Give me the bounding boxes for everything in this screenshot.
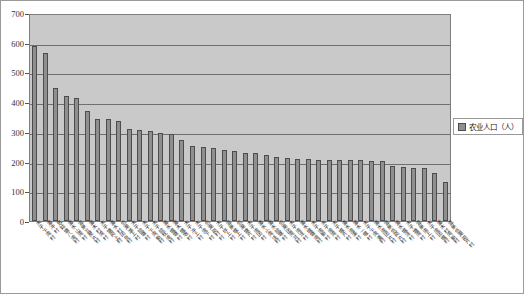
y-axis-tick-label: 600 xyxy=(11,39,24,49)
bar xyxy=(127,129,132,221)
bar xyxy=(43,53,48,221)
bar xyxy=(316,160,321,222)
bar xyxy=(32,46,37,221)
y-axis-tick-label: 400 xyxy=(11,98,24,108)
y-axis-tick-label: 200 xyxy=(11,158,24,168)
x-axis-labels: 木子下湾村潘冲村思姑塘八湾村潘水山湾村温泉瓦屋片村潘木村湾村木子塘岗上村潘水村团… xyxy=(29,223,451,295)
y-axis-tick-label: 300 xyxy=(11,128,24,138)
bar xyxy=(253,153,258,221)
bar xyxy=(285,158,290,221)
bar xyxy=(53,88,58,221)
bar xyxy=(74,98,79,221)
plot-area xyxy=(29,14,451,222)
y-axis-tick-label: 500 xyxy=(11,68,24,78)
bar xyxy=(64,96,69,221)
bar xyxy=(264,155,269,221)
bar xyxy=(201,147,206,221)
bar xyxy=(243,153,248,221)
bar xyxy=(95,119,100,222)
chart-frame: 0100200300400500600700 木子下湾村潘冲村思姑塘八湾村潘水山… xyxy=(0,0,524,294)
bar xyxy=(380,161,385,221)
bar xyxy=(432,173,437,221)
bar xyxy=(327,160,332,221)
bar xyxy=(358,160,363,221)
y-axis-tick-label: 0 xyxy=(20,217,24,227)
bar xyxy=(179,140,184,221)
bar xyxy=(369,161,374,221)
bar xyxy=(337,160,342,221)
bar xyxy=(211,148,216,221)
legend-swatch-icon xyxy=(458,123,466,131)
legend-label: 农业人口（人） xyxy=(469,121,518,132)
bar xyxy=(232,151,237,221)
bar xyxy=(148,131,153,221)
bar xyxy=(390,166,395,221)
bar xyxy=(158,133,163,221)
bar xyxy=(222,150,227,221)
bar xyxy=(190,146,195,221)
bar xyxy=(116,121,121,221)
bar xyxy=(106,119,111,221)
y-axis: 0100200300400500600700 xyxy=(1,14,29,222)
bar xyxy=(443,182,448,221)
bar-series xyxy=(30,15,450,221)
bar xyxy=(85,111,90,221)
bar xyxy=(411,168,416,221)
bar xyxy=(169,134,174,221)
bar xyxy=(422,168,427,221)
chart-legend: 农业人口（人） xyxy=(453,118,523,135)
y-axis-tick-label: 700 xyxy=(11,9,24,19)
bar xyxy=(401,167,406,221)
y-axis-tick-label: 100 xyxy=(11,187,24,197)
bar xyxy=(295,159,300,221)
bar xyxy=(274,157,279,221)
bar xyxy=(348,160,353,221)
bar xyxy=(306,159,311,221)
bar xyxy=(137,130,142,221)
